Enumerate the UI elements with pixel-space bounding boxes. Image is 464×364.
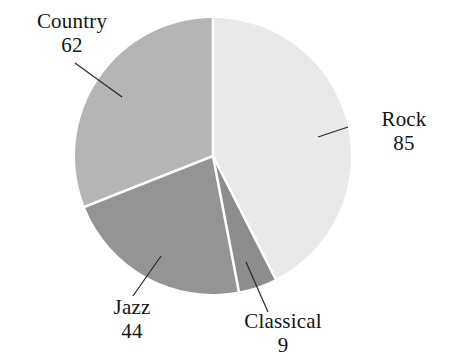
pie-label-rock-name: Rock bbox=[352, 108, 456, 132]
pie-chart: Country 62 Rock 85 Jazz 44 Classical 9 bbox=[0, 0, 464, 364]
pie-label-rock: Rock 85 bbox=[352, 108, 456, 156]
pie-label-jazz-name: Jazz bbox=[86, 296, 178, 320]
pie-label-country: Country 62 bbox=[8, 10, 136, 58]
pie-label-country-value: 62 bbox=[8, 34, 136, 58]
pie-label-jazz-value: 44 bbox=[86, 320, 178, 344]
pie-label-classical-value: 9 bbox=[215, 334, 351, 358]
pie-label-country-name: Country bbox=[8, 10, 136, 34]
pie-label-classical: Classical 9 bbox=[215, 310, 351, 358]
pie-label-classical-name: Classical bbox=[215, 310, 351, 334]
pie-label-jazz: Jazz 44 bbox=[86, 296, 178, 344]
pie-label-rock-value: 85 bbox=[352, 132, 456, 156]
